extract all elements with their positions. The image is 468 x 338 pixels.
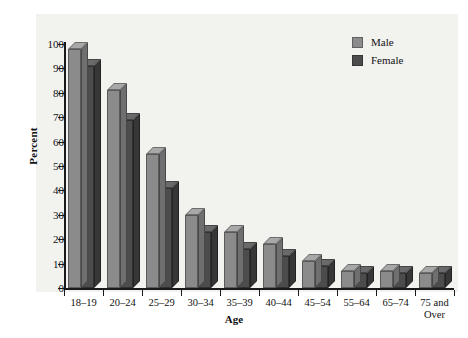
bar-front-face: [107, 90, 120, 288]
legend-label: Male: [371, 36, 394, 48]
x-axis-title: Age: [0, 313, 468, 325]
x-tick-mark: [181, 290, 182, 296]
bar-side-face: [159, 147, 166, 288]
bar-side-face: [211, 225, 218, 288]
bar-front-face: [419, 273, 432, 288]
x-category-label: 55–64: [337, 297, 376, 309]
bar-side-face: [120, 83, 127, 288]
bar-front-face: [302, 261, 315, 288]
x-category-label: 30–34: [181, 297, 220, 309]
bar-side-face: [276, 237, 283, 288]
x-tick-mark: [103, 290, 104, 296]
x-category-label: 20–24: [103, 297, 142, 309]
bar-male-0: [68, 49, 81, 288]
legend-item-female: Female: [352, 54, 403, 66]
x-tick-mark: [454, 290, 455, 296]
bar-front-face: [68, 49, 81, 288]
bar-male-9: [419, 273, 432, 288]
legend-swatch-icon: [352, 37, 363, 48]
x-tick-mark: [298, 290, 299, 296]
legend-label: Female: [371, 54, 403, 66]
bar-side-face: [250, 242, 257, 288]
bar-side-face: [81, 42, 88, 288]
y-axis-line: [64, 42, 66, 290]
bar-side-face: [172, 181, 179, 288]
x-tick-mark: [64, 290, 65, 296]
bar-male-2: [146, 154, 159, 288]
x-category-label: 35–39: [220, 297, 259, 309]
bar-front-face: [341, 271, 354, 288]
x-tick-mark: [259, 290, 260, 296]
bar-front-face: [380, 271, 393, 288]
x-category-label: 18–19: [64, 297, 103, 309]
bar-side-face: [198, 208, 205, 288]
bar-side-face: [237, 225, 244, 288]
bar-front-face: [263, 244, 276, 288]
bar-male-8: [380, 271, 393, 288]
x-category-label: 45–54: [298, 297, 337, 309]
x-tick-mark: [142, 290, 143, 296]
bar-male-4: [224, 232, 237, 288]
bar-side-face: [133, 113, 140, 288]
x-tick-mark: [220, 290, 221, 296]
bar-male-6: [302, 261, 315, 288]
x-tick-mark: [337, 290, 338, 296]
x-category-label: 25–29: [142, 297, 181, 309]
bar-male-3: [185, 215, 198, 288]
legend-swatch-icon: [352, 55, 363, 66]
bar-side-face: [94, 59, 101, 288]
x-tick-mark: [415, 290, 416, 296]
bar-chart-figure: Percent 0102030405060708090100 18–1920–2…: [0, 0, 468, 338]
x-tick-mark: [376, 290, 377, 296]
chart-legend: MaleFemale: [352, 36, 403, 72]
bar-front-face: [185, 215, 198, 288]
bar-front-face: [224, 232, 237, 288]
bar-front-face: [146, 154, 159, 288]
x-category-label: 40–44: [259, 297, 298, 309]
bar-male-7: [341, 271, 354, 288]
x-category-label: 65–74: [376, 297, 415, 309]
bar-male-5: [263, 244, 276, 288]
legend-item-male: Male: [352, 36, 403, 48]
bar-male-1: [107, 90, 120, 288]
